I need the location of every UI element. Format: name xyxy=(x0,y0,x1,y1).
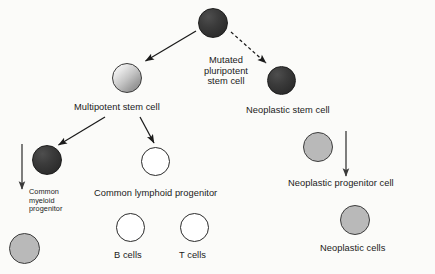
t-cells-circle xyxy=(180,213,209,242)
common-myeloid-line-3: progenitor xyxy=(29,205,79,214)
mutated-pluripotent-line-2: pluripotent xyxy=(189,66,263,77)
common-myeloid-progenitor-label: Common myeloid progenitor xyxy=(29,188,79,214)
mutated-pluripotent-line-1: Mutated xyxy=(189,55,263,66)
b-cells-circle xyxy=(116,213,145,242)
neoplastic-cells-label: Neoplastic cells xyxy=(320,243,385,254)
b-cells-label: B cells xyxy=(114,250,142,261)
neoplastic-progenitor-cell-circle xyxy=(303,132,333,162)
arrow-multipotent-to-lymphoid xyxy=(140,117,154,143)
common-lymphoid-progenitor-label: Common lymphoid progenitor xyxy=(94,188,217,199)
arrow-layer xyxy=(0,0,435,274)
multipotent-stem-cell-label: Multipotent stem cell xyxy=(74,102,160,113)
myeloid-derived-cell-circle xyxy=(9,233,40,264)
mutated-pluripotent-stem-cell-label: Mutated pluripotent stem cell xyxy=(189,55,263,87)
neoplastic-stem-cell-circle xyxy=(267,66,296,95)
neoplastic-cells-circle xyxy=(340,205,370,235)
common-lymphoid-progenitor-circle xyxy=(141,147,170,176)
neoplastic-stem-cell-label: Neoplastic stem cell xyxy=(246,105,330,116)
multipotent-stem-cell-circle xyxy=(112,63,142,93)
neoplastic-progenitor-cell-label: Neoplastic progenitor cell xyxy=(288,178,394,189)
t-cells-label: T cells xyxy=(179,250,206,261)
mutated-pluripotent-line-3: stem cell xyxy=(189,76,263,87)
arrow-multipotent-to-myeloid xyxy=(59,117,106,145)
mutated-pluripotent-stem-cell-circle xyxy=(198,8,228,38)
stem-cell-lineage-diagram: Mutated pluripotent stem cell Multipoten… xyxy=(0,0,435,274)
common-myeloid-progenitor-circle xyxy=(32,145,62,175)
